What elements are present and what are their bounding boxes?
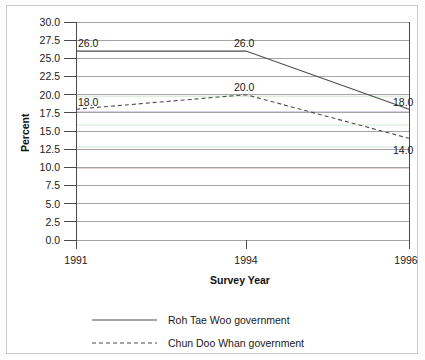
data-label-roh-1994: 26.0 xyxy=(234,37,255,49)
y-tick-label-10: 10.0 xyxy=(40,161,61,173)
x-tick-label-1994: 1994 xyxy=(234,254,258,266)
y-tick-label-25: 25.0 xyxy=(40,52,61,64)
x-axis-title: Survey Year xyxy=(210,274,270,286)
x-tickmarks xyxy=(76,240,409,249)
y-tick-label-7-5: 7.5 xyxy=(45,179,60,191)
line-chart: 30.0 27.5 25.0 22.5 20.0 17.5 15.0 12.5 … xyxy=(0,0,425,360)
y-tick-label-27-5: 27.5 xyxy=(40,34,61,46)
x-tick-label-1996: 1996 xyxy=(394,254,418,266)
y-tick-label-15: 15.0 xyxy=(40,125,61,137)
y-tick-label-5: 5.0 xyxy=(45,198,60,210)
chart-legend: Roh Tae Woo government Chun Doo Whan gov… xyxy=(92,314,304,349)
data-label-chun-1991: 18.0 xyxy=(78,96,99,108)
y-tick-label-0: 0.0 xyxy=(45,234,60,246)
y-tickmarks xyxy=(64,22,76,240)
legend-label-roh-tae-woo: Roh Tae Woo government xyxy=(168,314,290,326)
y-tick-label-20: 20.0 xyxy=(40,89,61,101)
y-tick-label-12-5: 12.5 xyxy=(40,143,61,155)
data-label-roh-1991: 26.0 xyxy=(78,37,99,49)
series-line-chun-doo-whan xyxy=(76,95,409,139)
gridlines xyxy=(64,22,409,240)
x-tick-label-1991: 1991 xyxy=(64,254,88,266)
chart-figure: 30.0 27.5 25.0 22.5 20.0 17.5 15.0 12.5 … xyxy=(0,0,425,360)
data-label-roh-1996: 18.0 xyxy=(393,96,414,108)
legend-label-chun-doo-whan: Chun Doo Whan government xyxy=(168,337,304,349)
data-label-chun-1996: 14.0 xyxy=(393,144,414,156)
y-axis-title: Percent xyxy=(19,113,31,152)
y-tick-label-30: 30.0 xyxy=(40,16,61,28)
y-tick-label-22-5: 22.5 xyxy=(40,70,61,82)
y-tick-label-2-5: 2.5 xyxy=(45,216,60,228)
data-label-chun-1994: 20.0 xyxy=(234,81,255,93)
y-tick-label-17-5: 17.5 xyxy=(40,107,61,119)
scan-artifacts xyxy=(76,96,409,168)
